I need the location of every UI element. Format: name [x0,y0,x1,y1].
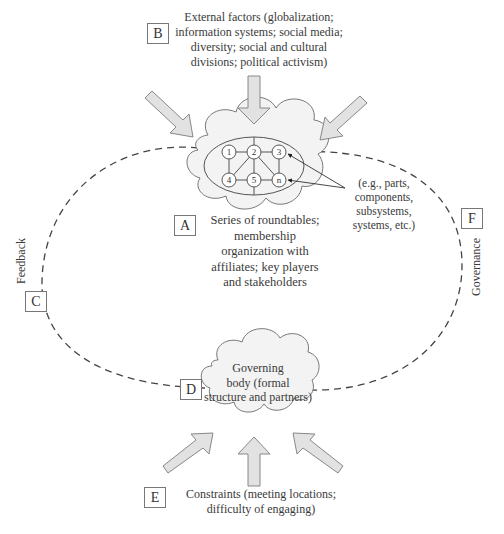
constraints-text: Constraints (meeting locations; difficul… [172,487,350,517]
network-node-2: 2 [247,145,261,159]
network-node-3: 3 [272,145,286,159]
svg-text:4: 4 [227,175,232,185]
constraint-arrow-center [238,437,270,486]
network-node-5: 5 [247,173,261,187]
svg-text:n: n [277,175,282,185]
svg-text:3: 3 [277,147,282,157]
examples-text: (e.g., parts, components, subsystems, sy… [346,176,422,232]
governance-label: Governance [469,238,484,296]
svg-text:5: 5 [252,175,257,185]
network-node-4: 4 [222,173,236,187]
label-box-f: F [461,208,483,229]
external-factors-text: External factors (globalization; informa… [172,10,346,70]
constraint-arrow-right [293,433,343,473]
external-arrow-left [145,91,193,137]
constraint-arrow-left [163,433,213,473]
network-node-n: n [272,173,286,187]
svg-text:1: 1 [227,147,232,157]
external-arrow-right [320,96,367,140]
svg-text:2: 2 [252,147,257,157]
label-box-c: C [25,291,47,312]
roundtables-text: Series of roundtables; membership organi… [190,213,340,291]
feedback-loop-left [42,147,205,388]
network-node-1: 1 [222,145,236,159]
label-box-e: E [144,487,166,508]
governing-body-text: Governing body (formal structure and par… [195,361,321,405]
diagram-canvas: 1 2 3 4 5 n [0,0,504,534]
label-box-b: B [147,23,169,44]
feedback-label: Feedback [14,238,29,284]
